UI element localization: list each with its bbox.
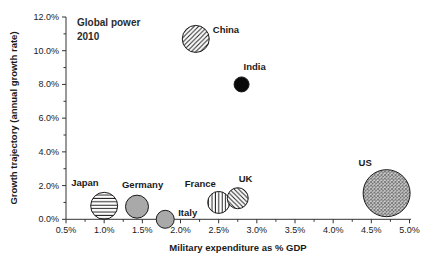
annotation-line-1: Global power — [77, 17, 140, 28]
y-axis-title: Growth trajectory (annual growth rate) — [8, 31, 19, 204]
x-tick-label: 1.5% — [132, 225, 153, 235]
y-tick-label: 12.0% — [33, 12, 59, 22]
x-tick-label: 1.0% — [94, 225, 115, 235]
y-tick-label: 2.0% — [38, 181, 59, 191]
bubble-label-italy: Italy — [178, 207, 198, 218]
bubble-label-japan: Japan — [71, 177, 99, 188]
x-axis-title: Military expenditure as % GDP — [66, 242, 410, 253]
bubble-chart-figure: 0.5%1.0%1.5%2.0%2.5%3.0%3.5%4.0%4.5%5.0%… — [0, 0, 436, 270]
chart-canvas: 0.5%1.0%1.5%2.0%2.5%3.0%3.5%4.0%4.5%5.0%… — [0, 0, 436, 270]
x-tick-label: 3.0% — [247, 225, 268, 235]
bubble-germany — [125, 195, 148, 218]
x-tick-label: 4.0% — [323, 225, 344, 235]
bubble-china — [182, 25, 209, 52]
bubble-labels: ChinaIndiaJapanGermanyItalyFranceUKUS — [71, 24, 372, 218]
x-tick-label: 5.0% — [399, 225, 420, 235]
y-tick-label: 4.0% — [38, 147, 59, 157]
bubble-france — [208, 191, 230, 213]
y-tick-label: 8.0% — [38, 79, 59, 89]
x-tick-label: 2.5% — [208, 225, 229, 235]
y-tick-label: 0.0% — [38, 214, 59, 224]
y-tick-label: 10.0% — [33, 46, 59, 56]
bubbles — [91, 25, 410, 228]
x-tick-label: 4.5% — [361, 225, 382, 235]
bubble-japan — [91, 192, 118, 219]
x-tick-label: 2.0% — [170, 225, 191, 235]
bubble-label-china: China — [213, 24, 240, 35]
x-tick-label: 0.5% — [56, 225, 77, 235]
bubble-label-us: US — [359, 157, 372, 168]
bubble-label-germany: Germany — [122, 179, 164, 190]
bubble-italy — [156, 210, 174, 228]
bubble-uk — [227, 188, 248, 209]
bubble-india — [234, 77, 249, 92]
bubble-label-india: India — [244, 61, 267, 72]
chart-annotation: Global power 2010 — [77, 16, 140, 43]
bubble-label-uk: UK — [239, 173, 253, 184]
bubble-us — [363, 170, 410, 217]
annotation-line-2: 2010 — [77, 31, 99, 42]
bubble-label-france: France — [185, 178, 216, 189]
x-tick-label: 3.5% — [285, 225, 306, 235]
y-tick-label: 6.0% — [38, 113, 59, 123]
